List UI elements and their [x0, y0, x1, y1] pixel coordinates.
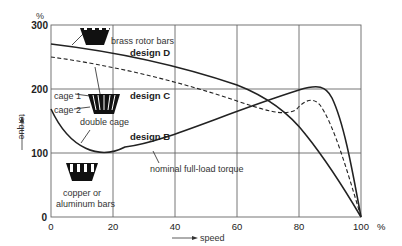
y-tick-200: 200 [31, 84, 48, 95]
svg-text:torque: torque [17, 114, 27, 140]
cage-1-label: cage 1 [54, 91, 81, 101]
x-tick-20: 20 [108, 221, 119, 232]
x-tick-60: 60 [232, 221, 243, 232]
x-tick-80: 80 [294, 221, 305, 232]
y-axis-label: torque [17, 114, 27, 150]
x-tick-0: 0 [48, 221, 53, 232]
y-tick-0: 0 [41, 212, 47, 223]
x-tick-40: 40 [170, 221, 181, 232]
copper-label-line2: aluminum bars [56, 199, 116, 209]
brass-rotor-label: brass rotor bars [111, 36, 175, 46]
brass-rotor-icon [80, 27, 110, 45]
torque-speed-chart: % 300 200 100 0 torque 0 20 40 60 80 100… [0, 0, 402, 246]
copper-rotor-icon [66, 163, 98, 181]
svg-text:speed: speed [200, 233, 225, 243]
x-tick-100: 100 [353, 221, 369, 232]
double-cage-label: double cage [80, 117, 129, 127]
design-d-label: design D [130, 47, 170, 58]
cage-2-label: cage 2 [54, 105, 81, 115]
y-tick-100: 100 [31, 148, 48, 159]
double-cage-rotor-icon [88, 94, 120, 114]
x-unit-label: % [377, 221, 386, 232]
design-c-label: design C [130, 90, 170, 101]
x-axis-label: speed [172, 233, 225, 243]
y-tick-300: 300 [31, 20, 48, 31]
design-b-label: design B [130, 131, 170, 142]
nominal-torque-label: nominal full-load torque [150, 164, 244, 174]
arrow-right-icon [192, 236, 198, 240]
copper-label-line1: copper or [63, 188, 101, 198]
